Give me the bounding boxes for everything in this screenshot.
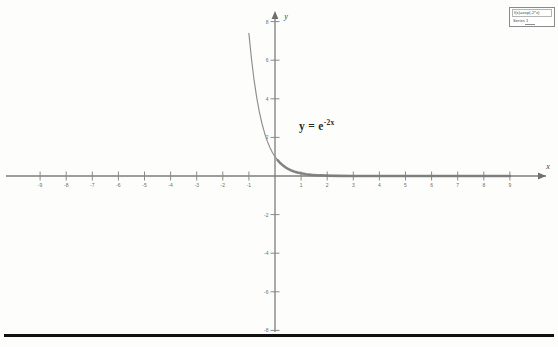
legend-color-swatch <box>525 24 535 25</box>
x-tick-label: -4 <box>168 182 173 188</box>
y-tick-label: -4 <box>264 250 269 256</box>
equation-exponent: -2x <box>324 118 335 127</box>
x-tick-label: -8 <box>64 182 69 188</box>
y-tick-label: 4 <box>266 96 269 102</box>
equation-annotation: y = e-2x <box>299 120 335 132</box>
series-curve-series-1 <box>249 33 510 176</box>
x-tick-label: -5 <box>142 182 147 188</box>
x-axis-arrow-icon <box>538 173 546 180</box>
x-tick-label: 8 <box>482 182 485 188</box>
x-tick-label: -6 <box>116 182 121 188</box>
x-tick-label: 7 <box>456 182 459 188</box>
x-tick-label: 1 <box>300 182 303 188</box>
y-axis-label: y <box>283 12 288 21</box>
function-plot: x y -9-8-7-6-5-4-3-2-1123456789 -8-6-4-2… <box>0 0 558 347</box>
x-tick-label: -7 <box>90 182 95 188</box>
x-tick-label: 2 <box>326 182 329 188</box>
x-tick-label: -9 <box>38 182 43 188</box>
legend-box[interactable]: f(x)=exp(-2*x) Series 1 <box>509 7 555 27</box>
legend-title: f(x)=exp(-2*x) <box>512 9 552 17</box>
legend-entry-series-1[interactable]: Series 1 <box>512 18 552 24</box>
plot-svg: x y -9-8-7-6-5-4-3-2-1123456789 -8-6-4-2… <box>0 0 558 347</box>
y-axis-arrow-icon <box>272 11 279 19</box>
bottom-black-rule <box>4 334 554 337</box>
series-curve-tail <box>278 160 510 176</box>
y-tick-label: 6 <box>266 57 269 63</box>
x-tick-label: 9 <box>509 182 512 188</box>
y-tick-label: 8 <box>266 19 269 25</box>
equation-base: y = e <box>299 120 324 132</box>
x-axis-label: x <box>545 162 550 171</box>
y-tick-label: -8 <box>264 327 269 333</box>
x-tick-label: 3 <box>352 182 355 188</box>
y-tick-label: -6 <box>264 289 269 295</box>
x-tick-label: -3 <box>194 182 199 188</box>
x-tick-label: 5 <box>404 182 407 188</box>
x-tick-label: 4 <box>378 182 381 188</box>
y-tick-label: -2 <box>264 212 269 218</box>
x-tick-label: -2 <box>221 182 226 188</box>
legend-entry-label: Series 1 <box>513 18 528 23</box>
x-tick-label: -1 <box>247 182 252 188</box>
x-tick-label: 6 <box>430 182 433 188</box>
